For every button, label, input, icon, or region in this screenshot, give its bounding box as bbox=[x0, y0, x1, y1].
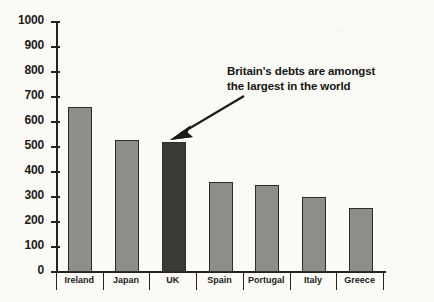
y-tick-900: 900 bbox=[51, 46, 60, 48]
x-separator-4 bbox=[243, 273, 244, 290]
y-tick-500: 500 bbox=[51, 146, 60, 148]
y-tick-700: 700 bbox=[51, 96, 60, 98]
bar-japan bbox=[115, 140, 139, 273]
y-tick-label-200: 200 bbox=[25, 213, 44, 227]
x-separator-3 bbox=[196, 273, 197, 290]
x-separator-1 bbox=[103, 273, 104, 290]
y-tick-800: 800 bbox=[51, 71, 60, 73]
y-tick-200: 200 bbox=[51, 221, 60, 223]
y-tick-100: 100 bbox=[51, 246, 60, 248]
annotation-line-2: the largest in the world bbox=[227, 79, 432, 94]
annotation-text: Britain's debts are amongst the largest … bbox=[227, 64, 432, 94]
plot-area: 10009008007006005004003002001000 bbox=[57, 22, 384, 272]
y-tick-label-900: 900 bbox=[25, 38, 44, 52]
callout-arrow-icon bbox=[160, 92, 250, 144]
x-label-greece: Greece bbox=[336, 275, 383, 285]
annotation-line-1: Britain's debts are amongst bbox=[227, 64, 432, 79]
x-separator-2 bbox=[149, 273, 150, 290]
y-tick-label-100: 100 bbox=[25, 238, 44, 252]
bar-ireland bbox=[68, 107, 92, 272]
x-label-spain: Spain bbox=[196, 275, 243, 285]
y-tick-label-300: 300 bbox=[25, 188, 44, 202]
bar-uk bbox=[162, 142, 186, 272]
y-tick-300: 300 bbox=[51, 196, 60, 198]
x-label-japan: Japan bbox=[103, 275, 150, 285]
y-tick-label-1000: 1000 bbox=[18, 13, 44, 27]
y-tick-400: 400 bbox=[51, 171, 60, 173]
x-label-portugal: Portugal bbox=[243, 275, 290, 285]
x-separator-0 bbox=[56, 273, 57, 290]
x-separator-5 bbox=[290, 273, 291, 290]
y-tick-600: 600 bbox=[51, 121, 60, 123]
x-label-ireland: Ireland bbox=[56, 275, 103, 285]
x-separator-6 bbox=[336, 273, 337, 290]
y-tick-1000: 1000 bbox=[51, 21, 60, 23]
bar-spain bbox=[209, 182, 233, 272]
bar-portugal bbox=[255, 185, 279, 273]
y-tick-label-400: 400 bbox=[25, 163, 44, 177]
bar-chart: 10009008007006005004003002001000 Ireland… bbox=[0, 0, 434, 302]
x-label-italy: Italy bbox=[290, 275, 337, 285]
x-label-uk: UK bbox=[149, 275, 196, 285]
bar-greece bbox=[349, 208, 373, 272]
y-tick-label-700: 700 bbox=[25, 88, 44, 102]
y-tick-label-0: 0 bbox=[38, 263, 44, 277]
bar-italy bbox=[302, 197, 326, 272]
y-tick-label-800: 800 bbox=[25, 63, 44, 77]
x-axis-category-band: IrelandJapanUKSpainPortugalItalyGreece bbox=[56, 273, 386, 293]
y-tick-label-500: 500 bbox=[25, 138, 44, 152]
x-separator-7 bbox=[383, 273, 384, 290]
y-tick-label-600: 600 bbox=[25, 113, 44, 127]
